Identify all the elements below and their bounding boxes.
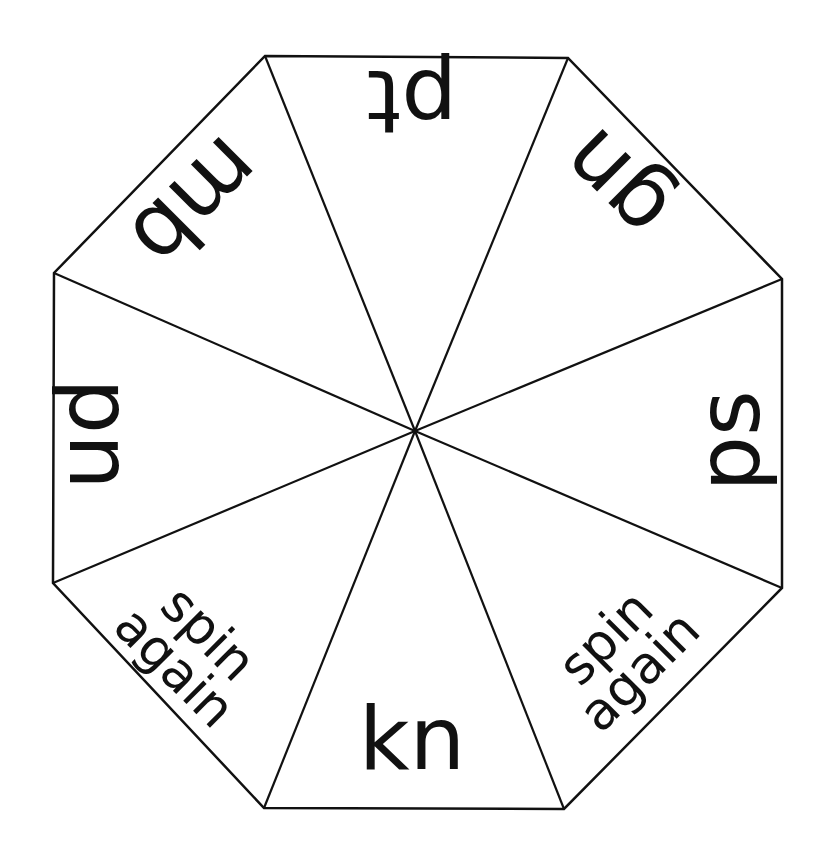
segment-label: pn [49, 378, 152, 490]
octagon-spinner: ptgnpsspinagainknspinagainpnmb [0, 0, 825, 865]
segment-label: kn [359, 687, 466, 790]
segment-label: pt [367, 50, 457, 153]
segment-label: ps [677, 390, 780, 492]
